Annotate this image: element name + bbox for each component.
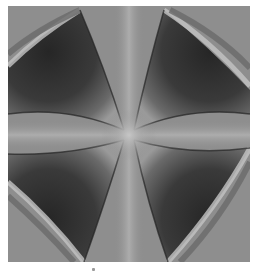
center-glow bbox=[101, 109, 157, 161]
four-lobe-pattern bbox=[8, 6, 250, 262]
caption-mark bbox=[92, 268, 95, 271]
pattern-image bbox=[8, 6, 250, 262]
